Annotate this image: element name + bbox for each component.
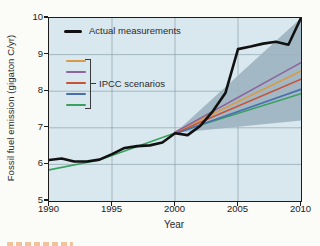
y-tick-mark bbox=[44, 199, 48, 200]
x-axis-label: Year bbox=[48, 219, 300, 230]
x-tick-label: 2010 bbox=[290, 203, 311, 214]
y-tick-label: 5 bbox=[0, 194, 43, 206]
cropped-caption-fragment bbox=[7, 242, 73, 246]
legend-actual-label: Actual measurements bbox=[89, 25, 181, 36]
emissions-figure: Fossil fuel emission (gigaton C/yr) Actu… bbox=[0, 0, 320, 246]
scenario-green-swatch bbox=[66, 104, 86, 106]
plot-svg bbox=[49, 18, 301, 201]
y-tick-mark bbox=[44, 16, 48, 17]
legend-scenarios-label: IPCC scenarios bbox=[99, 78, 165, 89]
legend-actual-line-swatch bbox=[64, 30, 82, 33]
scenario-purple-swatch bbox=[66, 71, 86, 73]
y-tick-label: 6 bbox=[0, 157, 43, 169]
plot-area: Actual measurements IPCC scenarios bbox=[48, 17, 302, 202]
legend-bracket-connector bbox=[90, 83, 96, 84]
y-tick-label: 9 bbox=[0, 48, 43, 60]
legend-bracket bbox=[85, 59, 91, 109]
y-tick-label: 10 bbox=[0, 11, 43, 23]
scenario-blue-swatch bbox=[66, 93, 86, 95]
y-tick-label: 7 bbox=[0, 121, 43, 133]
y-tick-mark bbox=[44, 53, 48, 54]
y-tick-mark bbox=[44, 90, 48, 91]
scenario-orange-swatch bbox=[66, 60, 86, 62]
scenario-red-swatch bbox=[66, 82, 86, 84]
y-tick-mark bbox=[44, 126, 48, 127]
y-tick-label: 8 bbox=[0, 84, 43, 96]
x-tick-label: 1995 bbox=[101, 203, 122, 214]
x-tick-label: 2000 bbox=[164, 203, 185, 214]
y-tick-mark bbox=[44, 163, 48, 164]
x-tick-label: 2005 bbox=[227, 203, 248, 214]
